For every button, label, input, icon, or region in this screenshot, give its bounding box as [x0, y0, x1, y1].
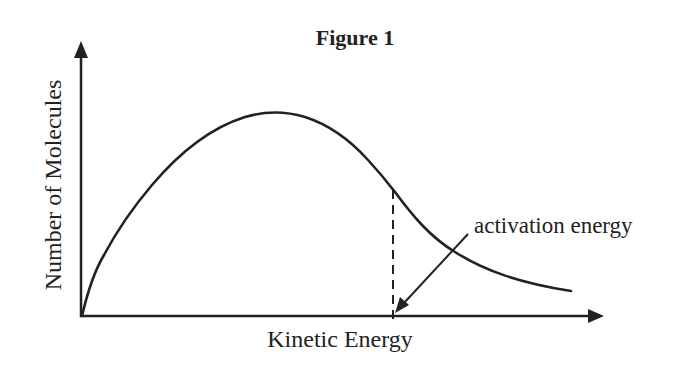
x-axis-label: Kinetic Energy: [267, 326, 413, 352]
x-axis-arrow-icon: [588, 309, 604, 323]
y-axis: [74, 41, 88, 317]
activation-energy-arrow: [395, 234, 468, 313]
x-axis: [80, 309, 604, 323]
chart-title: Figure 1: [316, 25, 394, 50]
y-axis-label: Number of Molecules: [40, 80, 66, 291]
y-axis-arrow-icon: [74, 41, 88, 58]
activation-energy-label: activation energy: [474, 213, 633, 238]
energy-distribution-chart: Figure 1 Number of Molecules Kinetic Ene…: [0, 0, 700, 376]
